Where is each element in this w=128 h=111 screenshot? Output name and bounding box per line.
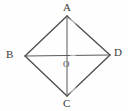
diagonal-B-D <box>25 55 110 56</box>
rhombus-diagonals <box>25 16 110 96</box>
rhombus-diagram-svg <box>0 0 128 111</box>
vertex-label-c: C <box>63 98 70 109</box>
edge-D-C <box>67 55 110 96</box>
vertex-label-d: D <box>114 47 122 58</box>
center-point-label-o: O <box>63 60 70 69</box>
geometry-figure: A B D C O <box>0 0 128 111</box>
vertex-label-b: B <box>6 49 13 60</box>
edge-A-D <box>67 16 110 55</box>
edge-B-A <box>25 16 67 56</box>
edge-C-B <box>25 56 67 96</box>
vertex-label-a: A <box>63 2 71 13</box>
